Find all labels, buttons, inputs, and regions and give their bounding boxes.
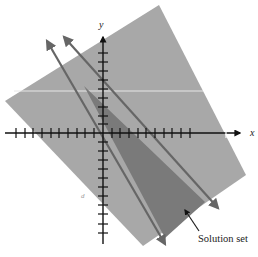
y-axis-label: y: [98, 19, 104, 30]
half-plane-region: [5, 5, 246, 246]
stray-mark: d: [81, 192, 85, 200]
inequality-graph: x y d Solution set: [0, 0, 258, 257]
solution-set-label: Solution set: [198, 233, 248, 244]
x-axis-label: x: [249, 127, 255, 138]
